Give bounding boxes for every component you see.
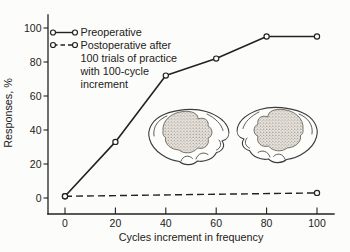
- data-point: [163, 73, 168, 78]
- legend: Preoperative Postoperative after 100 tri…: [51, 26, 178, 90]
- y-ticks: 020406080100: [24, 22, 48, 204]
- y-tick-label: 80: [30, 56, 42, 68]
- legend-marker-circle: [73, 30, 78, 35]
- x-tick-label: 100: [308, 217, 326, 229]
- y-tick-label: 60: [30, 90, 42, 102]
- legend-marker-circle: [51, 43, 56, 48]
- data-point: [314, 190, 319, 195]
- data-point: [314, 34, 319, 39]
- figure-svg: 020406080100 020406080100 Responses, % C…: [0, 0, 350, 252]
- y-tick-label: 40: [30, 124, 42, 136]
- x-tick-label: 20: [110, 217, 122, 229]
- y-tick-label: 0: [36, 192, 42, 204]
- legend-label-postoperative-line3: with 100-cycle: [80, 65, 149, 77]
- x-tick-label: 80: [261, 217, 273, 229]
- y-tick-label: 100: [24, 22, 42, 34]
- y-tick-label: 20: [30, 158, 42, 170]
- data-point: [264, 34, 269, 39]
- figure: 020406080100 020406080100 Responses, % C…: [0, 0, 350, 252]
- legend-label-postoperative-line2: 100 trials of practice: [81, 52, 178, 64]
- legend-marker-circle: [73, 43, 78, 48]
- x-tick-label: 0: [62, 217, 68, 229]
- x-tick-label: 60: [210, 217, 222, 229]
- brain-illustration-left: [149, 109, 229, 164]
- data-point: [214, 56, 219, 61]
- series-line-postoperative: [65, 193, 317, 196]
- legend-marker-circle: [51, 30, 56, 35]
- x-axis-label: Cycles increment in frequency: [119, 231, 264, 243]
- legend-label-postoperative-line1: Postoperative after: [81, 39, 172, 51]
- brain-illustration-right: [237, 107, 317, 162]
- x-ticks: 020406080100: [62, 208, 326, 230]
- legend-label-postoperative-line4: increment: [81, 78, 128, 90]
- data-point: [62, 194, 67, 199]
- data-point: [113, 139, 118, 144]
- legend-entry-preoperative: Preoperative: [51, 26, 142, 38]
- x-tick-label: 40: [160, 217, 172, 229]
- y-axis-label: Responses, %: [2, 78, 14, 148]
- legend-label-preoperative: Preoperative: [81, 26, 142, 38]
- legend-entry-postoperative: Postoperative after 100 trials of practi…: [51, 39, 178, 90]
